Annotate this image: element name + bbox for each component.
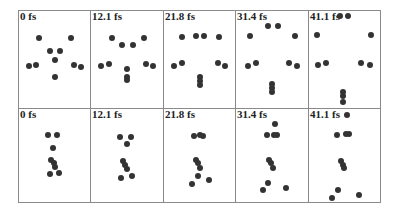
atom-dot: [33, 62, 39, 68]
atom-dot: [206, 177, 212, 183]
atom-dot: [117, 134, 123, 140]
time-label: 0 fs: [20, 108, 36, 120]
atom-dot: [247, 33, 253, 39]
atom-dot: [253, 60, 259, 66]
atom-dot: [201, 33, 207, 39]
atom-dot: [275, 23, 281, 29]
atom-dot: [334, 132, 340, 138]
time-label: 41.1 fs: [310, 10, 340, 22]
atom-dot: [356, 192, 362, 198]
atom-dot: [118, 175, 124, 181]
atom-dot: [195, 173, 201, 179]
atom-dot: [54, 132, 60, 138]
time-label: 21.8 fs: [165, 108, 195, 120]
atom-dot: [124, 166, 130, 172]
atom-dot: [106, 61, 112, 67]
atom-dot: [179, 60, 185, 66]
panel-top-3: 31.4 fs: [236, 11, 309, 109]
atom-dot: [358, 60, 364, 66]
atom-dot: [335, 187, 341, 193]
atom-dot: [124, 141, 130, 147]
atom-dot: [344, 112, 350, 118]
atom-dot: [98, 63, 104, 69]
panel-top-2: 21.8 fs: [164, 11, 236, 109]
atom-dot: [193, 33, 199, 39]
atom-dot: [78, 64, 84, 70]
panel-bottom-2: 21.8 fs: [164, 109, 236, 203]
time-label: 41.1 fs: [310, 108, 340, 120]
panel-bottom-0: 0 fs: [19, 109, 91, 203]
atom-dot: [47, 171, 53, 177]
panel-bottom-1: 12.1 fs: [91, 109, 164, 203]
atom-dot: [323, 60, 329, 66]
atom-dot: [36, 35, 42, 41]
atom-dot: [52, 164, 58, 170]
atom-dot: [124, 66, 130, 72]
atom-dot: [179, 34, 185, 40]
atom-dot: [292, 33, 298, 39]
atom-dot: [143, 61, 149, 67]
atom-dot: [265, 180, 271, 186]
atom-dot: [216, 34, 222, 40]
atom-dot: [265, 23, 271, 29]
panel-bottom-3: 31.4 fs: [236, 109, 309, 203]
atom-dot: [57, 48, 63, 54]
atom-dot: [286, 60, 292, 66]
time-label: 31.4 fs: [237, 10, 267, 22]
atom-dot: [274, 132, 280, 138]
atom-dot: [47, 48, 53, 54]
atom-dot: [141, 35, 147, 41]
atom-dot: [245, 63, 251, 69]
atom-dot: [260, 187, 266, 193]
panel-top-1: 12.1 fs: [91, 11, 164, 109]
atom-dot: [341, 165, 347, 171]
panel-bottom-4: 41.1 fs: [309, 109, 381, 203]
atom-dot: [129, 173, 135, 179]
time-label: 31.4 fs: [237, 108, 267, 120]
time-label: 0 fs: [20, 10, 36, 22]
atom-dot: [56, 170, 62, 176]
atom-dot: [68, 35, 74, 41]
atom-dot: [337, 13, 343, 19]
atom-dot: [314, 32, 320, 38]
atom-dot: [283, 185, 289, 191]
snapshot-figure-grid: 0 fs 12.1 fs 21.8 fs 31.4 fs 41.1 fs 0 f…: [18, 10, 381, 203]
panel-top-0: 0 fs: [19, 11, 91, 109]
atom-dot: [52, 74, 58, 80]
atom-dot: [71, 62, 77, 68]
atom-dot: [367, 62, 373, 68]
atom-dot: [272, 121, 278, 127]
atom-dot: [329, 195, 335, 201]
atom-dot: [340, 99, 346, 105]
atom-dot: [45, 132, 51, 138]
atom-dot: [270, 165, 276, 171]
atom-dot: [26, 63, 32, 69]
atom-dot: [294, 63, 300, 69]
atom-dot: [119, 42, 125, 48]
atom-dot: [264, 132, 270, 138]
atom-dot: [130, 42, 136, 48]
atom-dot: [368, 32, 374, 38]
panel-top-4: 41.1 fs: [309, 11, 381, 109]
atom-dot: [50, 145, 56, 151]
atom-dot: [197, 165, 203, 171]
atom-dot: [346, 131, 352, 137]
time-label: 12.1 fs: [92, 108, 122, 120]
atom-dot: [150, 63, 156, 69]
atom-dot: [200, 133, 206, 139]
atom-dot: [269, 89, 275, 95]
atom-dot: [222, 63, 228, 69]
atom-dot: [52, 57, 58, 63]
atom-dot: [171, 63, 177, 69]
atom-dot: [109, 35, 115, 41]
atom-dot: [124, 77, 130, 83]
atom-dot: [197, 82, 203, 88]
atom-dot: [345, 13, 351, 19]
time-label: 21.8 fs: [165, 10, 195, 22]
atom-dot: [128, 134, 134, 140]
time-label: 12.1 fs: [92, 10, 122, 22]
atom-dot: [215, 60, 221, 66]
atom-dot: [189, 181, 195, 187]
atom-dot: [315, 62, 321, 68]
